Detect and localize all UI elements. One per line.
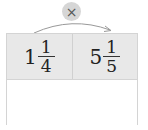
denominator: 4 (38, 57, 55, 75)
mixed-number: 1 1 4 (24, 38, 55, 75)
answer-cell[interactable] (7, 80, 137, 125)
fraction-table: 1 1 4 5 1 5 (6, 33, 138, 125)
numerator: 1 (103, 38, 120, 56)
fraction: 1 5 (103, 38, 120, 75)
operator-symbol: × (66, 5, 78, 19)
whole-part: 1 (24, 45, 37, 69)
fraction: 1 4 (38, 38, 55, 75)
cell-second-factor: 5 1 5 (72, 34, 138, 79)
mixed-number: 5 1 5 (89, 38, 120, 75)
denominator: 5 (103, 57, 120, 75)
numerator: 1 (38, 38, 55, 56)
arrow-icon (30, 18, 120, 34)
whole-part: 5 (89, 45, 102, 69)
cell-first-factor: 1 1 4 (7, 34, 72, 79)
input-row: 1 1 4 5 1 5 (7, 34, 137, 80)
